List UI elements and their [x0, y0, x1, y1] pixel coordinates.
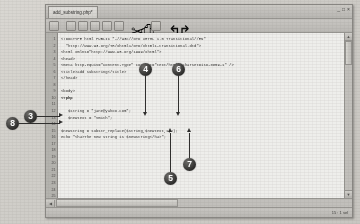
editor-toolbar: ✂ ⎙ ↰ ↱ [46, 19, 352, 33]
callout-5: 5 [164, 172, 177, 185]
callout-8-leader [19, 123, 60, 124]
callout-3-arrowhead [59, 113, 63, 117]
editor-file-tab[interactable]: add_substring.php* [48, 6, 98, 18]
callout-6-leader [178, 76, 179, 113]
editor-file-tab-label: add_substring.php* [53, 10, 93, 15]
vertical-scrollbar[interactable]: ▲ ▼ [344, 33, 352, 198]
undo-icon[interactable]: ↰ [168, 22, 176, 30]
callout-6: 6 [172, 63, 185, 76]
cut-icon[interactable]: ✂ [131, 22, 139, 30]
scroll-down-icon[interactable]: ▼ [345, 190, 352, 198]
code-line [61, 193, 352, 198]
paste-icon[interactable] [151, 21, 161, 31]
save-icon[interactable] [78, 21, 88, 31]
callout-7: 7 [183, 158, 196, 171]
print-preview-icon[interactable] [114, 21, 124, 31]
callout-8-arrowhead [59, 120, 63, 124]
callout-8: 8 [6, 117, 19, 130]
cursor-position-indicator: 15 : 1 sel [332, 210, 348, 215]
close-icon[interactable]: × [347, 7, 350, 12]
callout-7-leader [189, 133, 190, 158]
window-controls: _ □ × [337, 7, 350, 12]
horizontal-scrollbar[interactable]: ◀ [46, 198, 352, 207]
scroll-up-icon[interactable]: ▲ [345, 33, 352, 41]
code-editor-window: add_substring.php* _ □ × ✂ ⎙ ↰ ↱ 1234567… [45, 4, 353, 218]
vertical-scrollbar-thumb[interactable] [345, 41, 352, 65]
redo-icon[interactable]: ↱ [178, 22, 186, 30]
callout-5-arrowhead [168, 128, 172, 132]
print-icon[interactable] [102, 21, 112, 31]
editor-body: 1234567891011121314151617181920212223242… [46, 33, 352, 198]
callout-4-arrowhead [143, 112, 147, 116]
callout-5-leader [170, 133, 171, 172]
open-folder-icon[interactable] [66, 21, 76, 31]
scroll-left-icon[interactable]: ◀ [46, 200, 55, 207]
callout-4: 4 [139, 63, 152, 76]
callout-4-leader [145, 76, 146, 113]
window-titlebar: add_substring.php* _ □ × [46, 5, 352, 19]
code-editor-area[interactable]: <!DOCTYPE html PUBLIC "-//W3C//DTD XHTML… [58, 33, 352, 198]
copy-icon[interactable]: ⎙ [141, 22, 149, 30]
line-number: 25 [46, 193, 56, 198]
horizontal-scrollbar-thumb[interactable] [56, 199, 178, 207]
maximize-icon[interactable]: □ [342, 7, 345, 12]
editor-statusbar: 15 : 1 sel [46, 207, 352, 217]
callout-7-arrowhead [187, 128, 191, 132]
callout-3-leader [37, 116, 60, 117]
callout-3: 3 [24, 110, 37, 123]
save-all-icon[interactable] [90, 21, 100, 31]
minimize-icon[interactable]: _ [337, 7, 340, 12]
code-text[interactable]: <!DOCTYPE html PUBLIC "-//W3C//DTD XHTML… [58, 33, 352, 198]
new-file-icon[interactable] [49, 21, 59, 31]
callout-6-arrowhead [176, 112, 180, 116]
